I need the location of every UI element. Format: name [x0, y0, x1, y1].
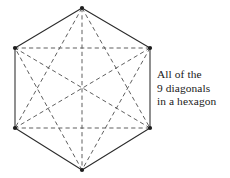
hexagon-vertex-dots-group [13, 6, 152, 172]
edge-D-E [15, 128, 82, 170]
vertex-dot-lower-right [148, 126, 152, 130]
vertex-dot-top [80, 6, 84, 10]
diagonal-B-D [82, 48, 150, 170]
caption-line-3: in a hexagon [157, 95, 230, 109]
caption-line-1: All of the [157, 68, 230, 82]
edge-F-A [15, 8, 82, 48]
edge-A-B [82, 8, 150, 48]
figure-caption: All of the 9 diagonals in a hexagon [157, 68, 230, 109]
caption-line-2: 9 diagonals [157, 82, 230, 96]
hexagon-diagonals-group [15, 8, 150, 170]
vertex-dot-bottom [80, 168, 84, 172]
diagonal-D-F [15, 48, 82, 170]
hexagon-diagram-figure: All of the 9 diagonals in a hexagon [0, 0, 230, 178]
vertex-dot-upper-left [13, 46, 17, 50]
hexagon-edges-group [15, 8, 150, 170]
vertex-dot-upper-right [148, 46, 152, 50]
vertex-dot-lower-left [13, 126, 17, 130]
edge-C-D [82, 128, 150, 170]
